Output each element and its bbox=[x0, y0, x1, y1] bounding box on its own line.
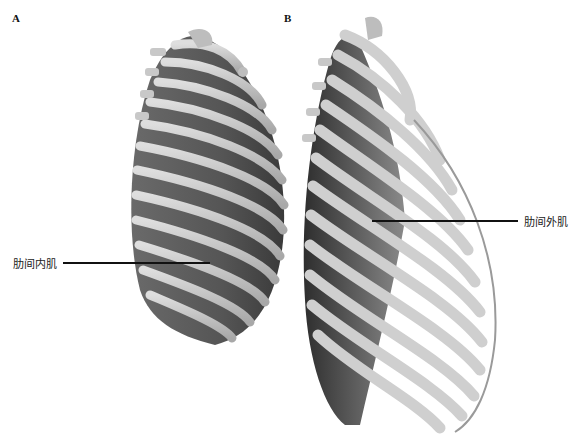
leader-line-b bbox=[372, 220, 518, 222]
label-internal-intercostal: 肋间内肌 bbox=[13, 255, 57, 271]
leader-line-a bbox=[63, 262, 210, 264]
label-external-intercostal: 肋间外肌 bbox=[524, 213, 568, 229]
